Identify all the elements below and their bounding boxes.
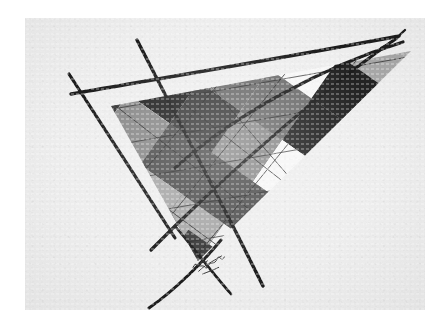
drawing-surface — [25, 18, 425, 310]
artwork-canvas — [0, 0, 447, 333]
paper-sheet — [25, 18, 425, 310]
